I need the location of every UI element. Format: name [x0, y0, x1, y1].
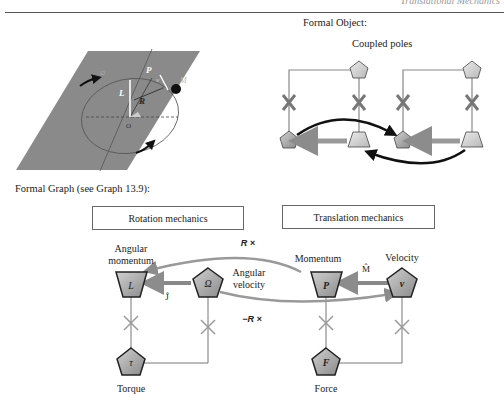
caption-angular-velocity-1: Angular: [233, 267, 266, 278]
formal-graph-crosses: [124, 316, 409, 334]
mass-point: [171, 84, 181, 94]
symbol-tau: τ: [129, 357, 133, 368]
caption-momentum: Momentum: [295, 253, 342, 264]
label-R: R: [138, 96, 145, 106]
symbol-v: v: [400, 278, 405, 289]
coupled-poles-crosses: [283, 95, 478, 110]
formal-graph-couplings: [150, 258, 392, 302]
label-L: L: [118, 88, 125, 98]
symbol-Omega: Ω: [204, 278, 211, 289]
caption-torque: Torque: [117, 383, 146, 394]
label-M: M: [179, 76, 188, 85]
caption-angular-velocity-2: velocity: [233, 279, 265, 290]
label-O: O: [126, 122, 131, 130]
operator-J: Ĵ: [165, 292, 169, 302]
operator-R-cross: R ×: [241, 238, 256, 248]
coupled-poles-arrows: [297, 119, 465, 163]
operator-M: M̂: [362, 263, 370, 274]
caption-angular-momentum-2: momentum: [108, 255, 154, 266]
diagram-canvas: P v M Ω L R O: [0, 0, 504, 397]
caption-velocity: Velocity: [385, 252, 418, 263]
formal-graph-wires: [131, 297, 402, 363]
label-P: P: [146, 65, 152, 75]
operator-neg-R-cross: −R ×: [242, 314, 262, 324]
caption-force: Force: [315, 383, 338, 394]
symbol-F: F: [322, 357, 330, 368]
symbol-P: P: [323, 280, 330, 291]
orbit-figure: P v M Ω L R O: [16, 49, 200, 171]
caption-angular-momentum-1: Angular: [115, 243, 148, 254]
symbol-L: L: [127, 280, 134, 291]
coupled-poles-diagram: [289, 70, 472, 140]
label-omega: Ω: [100, 69, 105, 77]
coupled-poles-nodes: [280, 61, 483, 148]
